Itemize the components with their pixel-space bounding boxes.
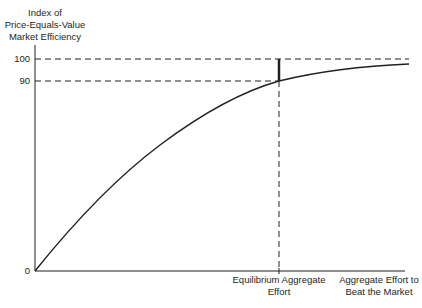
x-label-equilibrium: Equilibrium Aggregate Effort [229, 274, 329, 298]
x-axis-title-line-1: Aggregate Effort to [336, 274, 422, 286]
chart-plot [0, 0, 422, 308]
x-axis-title: Aggregate Effort to Beat the Market [336, 274, 422, 298]
efficiency-curve [35, 64, 409, 271]
x-label-equilibrium-line-1: Equilibrium Aggregate [229, 274, 329, 286]
x-axis-title-line-2: Beat the Market [336, 286, 422, 298]
x-label-equilibrium-line-2: Effort [229, 286, 329, 298]
